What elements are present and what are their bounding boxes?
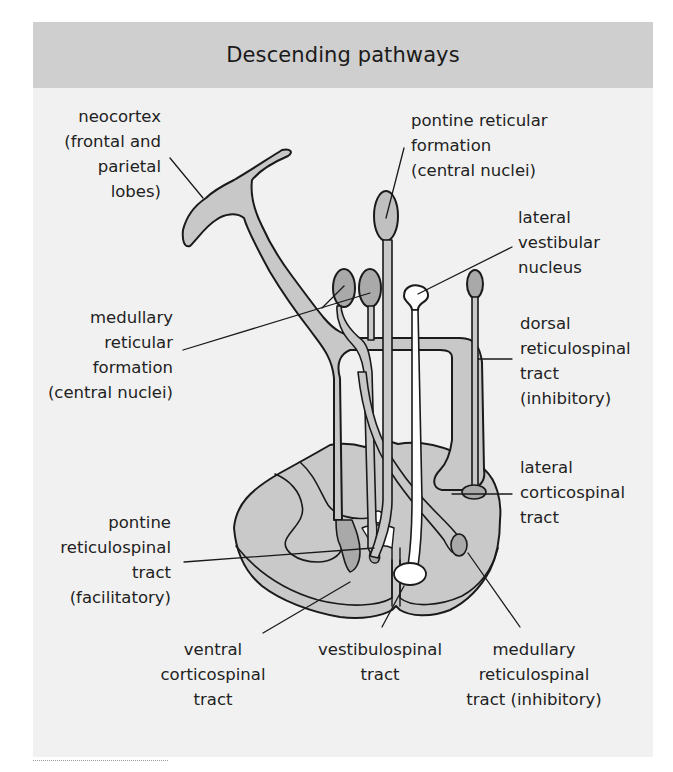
label-line: (central nuclei) xyxy=(48,380,173,405)
label-line: lateral xyxy=(520,455,625,480)
label-dorsal-reticulospinal-tract: dorsal reticulospinal tract (inhibitory) xyxy=(520,311,631,411)
label-line: tract (inhibitory) xyxy=(454,687,614,712)
label-line: tract xyxy=(60,560,171,585)
label-line: vestibulospinal xyxy=(300,637,460,662)
label-pontine-reticular-formation: pontine reticular formation (central nuc… xyxy=(411,108,548,183)
label-line: (frontal and xyxy=(64,129,161,154)
label-neocortex: neocortex (frontal and parietal lobes) xyxy=(64,104,161,204)
label-line: reticulospinal xyxy=(520,336,631,361)
label-line: tract xyxy=(520,361,631,386)
label-line: (facilitatory) xyxy=(60,585,171,610)
label-line: medullary xyxy=(454,637,614,662)
label-line: neocortex xyxy=(64,104,161,129)
label-line: tract xyxy=(150,687,276,712)
label-line: corticospinal xyxy=(520,480,625,505)
label-line: formation xyxy=(411,133,548,158)
label-line: lateral xyxy=(518,205,600,230)
label-line: lobes) xyxy=(64,179,161,204)
label-line: medullary xyxy=(48,305,173,330)
label-line: corticospinal xyxy=(150,662,276,687)
label-medullary-reticulospinal-tract: medullary reticulospinal tract (inhibito… xyxy=(454,637,614,712)
label-medullary-reticular-formation: medullary reticular formation (central n… xyxy=(48,305,173,405)
label-line: tract xyxy=(520,505,625,530)
label-line: reticulospinal xyxy=(454,662,614,687)
label-line: pontine reticular xyxy=(411,108,548,133)
label-pontine-reticulospinal-tract: pontine reticulospinal tract (facilitato… xyxy=(60,510,171,610)
label-line: nucleus xyxy=(518,255,600,280)
label-line: (inhibitory) xyxy=(520,386,631,411)
leader-lateral-vestibular xyxy=(418,247,512,294)
footer-divider xyxy=(33,760,168,761)
leader-neocortex xyxy=(170,158,203,198)
label-line: ventral xyxy=(150,637,276,662)
label-lateral-vestibular-nucleus: lateral vestibular nucleus xyxy=(518,205,600,280)
label-line: pontine xyxy=(60,510,171,535)
label-line: parietal xyxy=(64,154,161,179)
label-line: reticulospinal xyxy=(60,535,171,560)
label-vestibulospinal-tract: vestibulospinal tract xyxy=(300,637,460,687)
label-line: reticular xyxy=(48,330,173,355)
label-lateral-corticospinal-tract: lateral corticospinal tract xyxy=(520,455,625,530)
label-line: tract xyxy=(300,662,460,687)
label-line: vestibular xyxy=(518,230,600,255)
label-line: dorsal xyxy=(520,311,631,336)
label-line: (central nuclei) xyxy=(411,158,548,183)
label-line: formation xyxy=(48,355,173,380)
label-ventral-corticospinal-tract: ventral corticospinal tract xyxy=(150,637,276,712)
